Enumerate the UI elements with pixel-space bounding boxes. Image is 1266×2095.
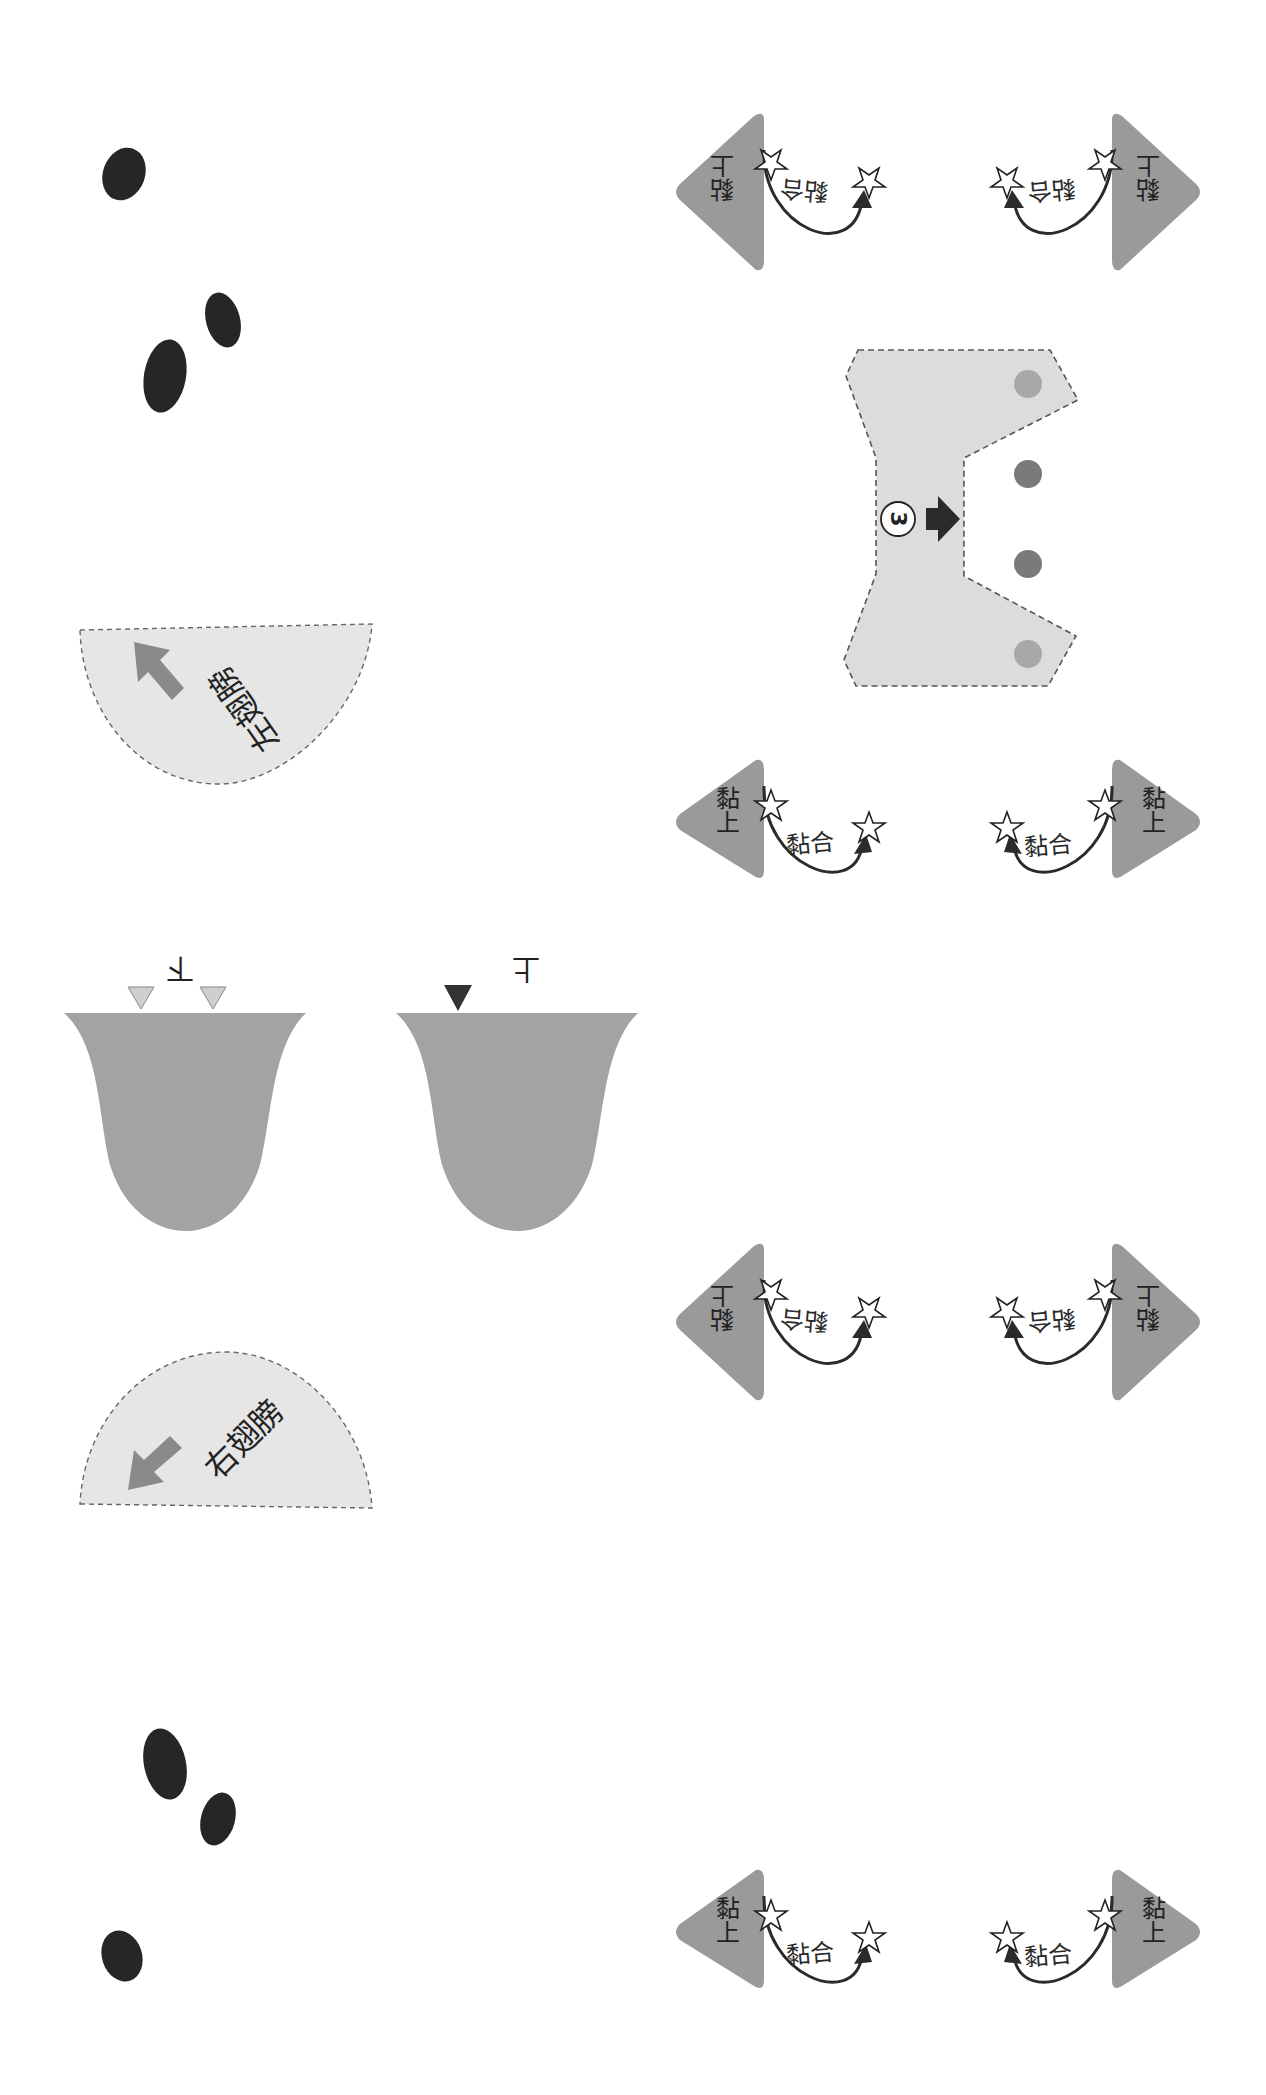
right-tab-label: 黏上 xyxy=(1138,1284,1163,1332)
left-arc-label: 黏合 xyxy=(785,1940,835,1968)
right-arc-label: 黏合 xyxy=(1023,832,1073,860)
marker-dark xyxy=(444,985,472,1011)
left-arc-label: 黏合 xyxy=(785,830,835,858)
right-tongue: 上 xyxy=(392,945,642,1235)
star-icon xyxy=(852,1920,886,1954)
star-icon xyxy=(754,788,788,822)
star-icon xyxy=(1088,788,1122,822)
glue-group-1: 黏上 黏合 黏上 黏合 xyxy=(668,108,1208,280)
blob-bottom-1 xyxy=(141,1726,191,1806)
right-arc-label: 黏合 xyxy=(1027,1306,1077,1334)
blob-top-1 xyxy=(100,145,150,205)
left-tab-label: 黏上 xyxy=(712,786,737,834)
glue-group-4: 黏上 黏合 黏上 黏合 xyxy=(668,1856,1208,2028)
right-tab-label: 黏上 xyxy=(1138,154,1163,202)
star-icon xyxy=(852,810,886,844)
right-arc-label: 黏合 xyxy=(1027,176,1077,204)
star-icon xyxy=(754,1898,788,1932)
blob-bottom-2 xyxy=(198,1790,240,1850)
left-tab-label: 黏上 xyxy=(712,1896,737,1944)
right-wing: 右翅膀 xyxy=(76,1340,376,1512)
right-tab-label: 黏上 xyxy=(1138,1896,1163,1944)
dot-dark xyxy=(1014,550,1042,578)
tongue-label-down: 下 xyxy=(166,951,194,991)
left-tab-label: 黏上 xyxy=(712,1284,737,1332)
left-arc-label: 黏合 xyxy=(779,1306,829,1334)
right-tab-label: 黏上 xyxy=(1138,786,1163,834)
left-arc-label: 黏合 xyxy=(779,176,829,204)
star-icon xyxy=(1088,1898,1122,1932)
blob-top-3 xyxy=(140,337,190,417)
star-icon xyxy=(1088,148,1122,182)
left-wing: 左翅膀 xyxy=(76,618,376,788)
star-icon xyxy=(852,1296,886,1330)
marker-light xyxy=(128,987,154,1009)
dot-light-top xyxy=(1014,370,1042,398)
dot-dark xyxy=(1014,460,1042,488)
star-icon xyxy=(990,1296,1024,1330)
glue-group-2: 黏上 黏合 黏上 黏合 xyxy=(668,746,1208,918)
dot-light-bottom xyxy=(1014,640,1042,668)
blob-bottom-3 xyxy=(100,1928,146,1986)
right-arc-label: 黏合 xyxy=(1023,1942,1073,1970)
left-tab-label: 黏上 xyxy=(712,154,737,202)
marker-light xyxy=(200,987,226,1009)
tongue-label-up: 上 xyxy=(512,951,540,991)
star-icon xyxy=(852,166,886,200)
star-icon xyxy=(990,1920,1024,1954)
blob-top-2 xyxy=(203,290,245,352)
step-number: 3 xyxy=(885,507,911,531)
star-icon xyxy=(990,166,1024,200)
star-icon xyxy=(990,810,1024,844)
star-icon xyxy=(1088,1278,1122,1312)
center-panel: 3 xyxy=(820,338,1100,698)
left-tongue: 下 xyxy=(60,945,310,1235)
panel-shape xyxy=(820,338,1100,698)
glue-group-3: 黏上 黏合 黏上 黏合 xyxy=(668,1238,1208,1410)
